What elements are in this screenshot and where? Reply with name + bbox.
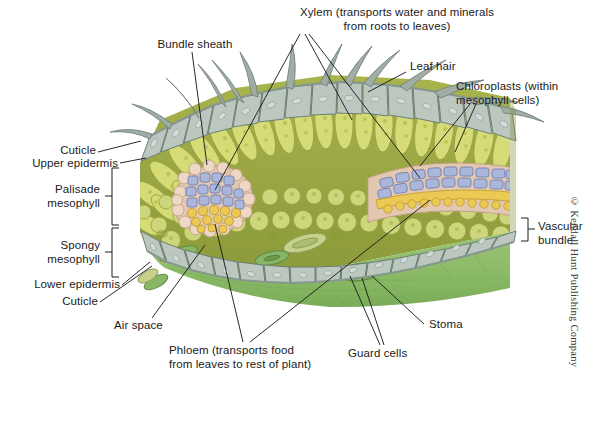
bracket-spongy [112,228,119,277]
label-leaf-hair: Leaf hair [410,60,456,74]
label-upper-epidermis: Upper epidermis [0,157,118,171]
label-guard-cells: Guard cells [348,347,407,361]
label-cuticle-bottom: Cuticle [0,295,98,309]
label-chloroplasts: Chloroplasts (within mesophyll cells) [456,80,558,107]
label-stoma: Stoma [429,318,463,332]
label-cuticle-top: Cuticle [0,144,96,158]
label-palisade-mesophyll: Palisade mesophyll [0,183,100,210]
label-phloem: Phloem (transports food from leaves to r… [169,344,311,371]
bracket-vascular [521,218,528,241]
right-cut-edge [510,98,516,232]
label-lower-epidermis: Lower epidermis [0,278,120,292]
label-xylem: Xylem (transports water and minerals fro… [282,6,512,33]
label-spongy-mesophyll: Spongy mesophyll [0,239,100,266]
leaf-diagram-figure: Bundle sheath Xylem (transports water an… [0,0,599,423]
label-air-space: Air space [114,319,163,333]
bracket-palisade [112,168,119,225]
copyright-notice: © Kendall Hunt Publishing Company [566,196,580,367]
label-bundle-sheath: Bundle sheath [140,38,250,52]
